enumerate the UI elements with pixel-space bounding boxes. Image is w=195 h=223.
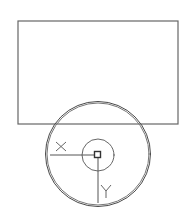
origin-marker-icon[interactable]	[95, 152, 101, 158]
y-axis-label-glyph	[101, 185, 111, 198]
cad-drawing-canvas: X Y	[0, 0, 195, 223]
x-axis-label: X	[61, 149, 62, 150]
y-axis-label: Y	[106, 195, 107, 196]
rectangle-shape[interactable]	[18, 21, 178, 124]
